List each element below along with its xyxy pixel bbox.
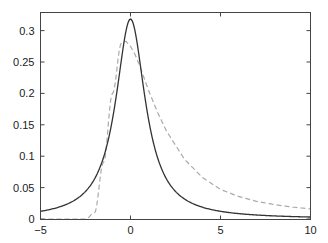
x-tick-label: 0 — [127, 224, 133, 236]
y-tick-label: 0.25 — [13, 56, 34, 68]
x-axis-ticks: −50510 — [34, 13, 316, 236]
x-tick-label: 5 — [217, 224, 223, 236]
chart-plot: 00.050.10.150.20.250.3 −50510 — [0, 0, 328, 243]
x-tick-label: −5 — [34, 224, 47, 236]
solid-curve — [41, 19, 311, 217]
y-tick-label: 0.15 — [13, 119, 34, 131]
x-tick-label: 10 — [304, 224, 316, 236]
axes-box — [41, 13, 311, 220]
y-axis-ticks: 00.050.10.150.20.250.3 — [13, 25, 310, 225]
y-tick-label: 0.1 — [19, 150, 34, 162]
y-tick-label: 0.05 — [13, 182, 34, 194]
y-tick-label: 0.3 — [19, 25, 34, 37]
y-tick-label: 0.2 — [19, 87, 34, 99]
